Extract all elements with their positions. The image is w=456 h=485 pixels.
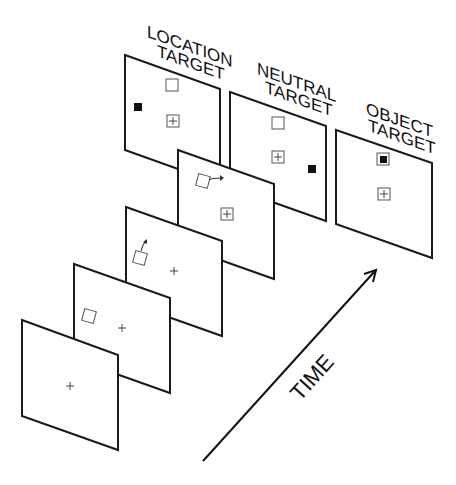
- target-square: [134, 103, 142, 111]
- cue-square: [166, 79, 178, 91]
- target-square: [308, 165, 316, 173]
- cue-square: [133, 251, 148, 266]
- cue-square: [82, 309, 97, 324]
- time-arrow: TIME: [203, 270, 376, 461]
- cue-square: [196, 174, 211, 189]
- time-label: TIME: [285, 350, 339, 406]
- target-square: [380, 156, 387, 163]
- time-axis-line: [203, 271, 375, 461]
- cue-square: [272, 117, 284, 129]
- time-sequence-diagram: LOCATION TARGET NEUTRAL TARGET OBJECT TA…: [0, 0, 456, 485]
